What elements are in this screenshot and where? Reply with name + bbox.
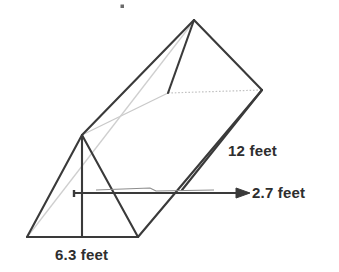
- scan-speck: [121, 5, 125, 9]
- dimension-label-length: 12 feet: [228, 143, 277, 158]
- front-face-edge-right: [82, 135, 138, 237]
- back-face-edge-left: [168, 20, 194, 93]
- hidden-edge-back-base: [168, 90, 262, 93]
- height-dimension-arrow: [74, 188, 250, 198]
- hidden-edge-front-apex-to-back: [82, 92, 170, 135]
- height-arrow-head: [236, 188, 250, 198]
- front-face-edge-left: [27, 135, 82, 237]
- triangular-prism-figure: 12 feet 2.7 feet 6.3 feet: [0, 0, 339, 272]
- height-arrow-highlight: [96, 188, 214, 191]
- dimension-label-height: 2.7 feet: [252, 185, 305, 200]
- prism-outline-group: [27, 20, 262, 237]
- hidden-edge-bottomleft-to-back-apex: [28, 21, 194, 236]
- prism-drawing: [0, 0, 339, 272]
- lateral-edge-bottom: [138, 90, 262, 237]
- dimension-label-base: 6.3 feet: [55, 247, 108, 262]
- lateral-edge-top: [82, 20, 194, 135]
- back-face-edge-right: [194, 20, 262, 90]
